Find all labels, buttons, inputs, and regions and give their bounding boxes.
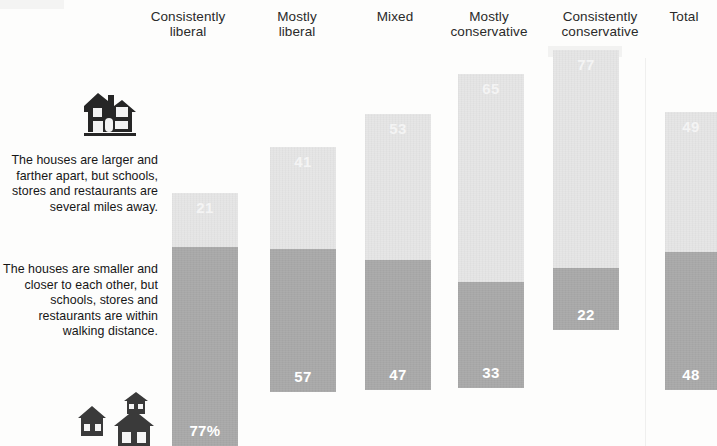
side-label-walkable: The houses are smaller and closer to eac…: [0, 262, 162, 340]
bar-consistently-conservative: 7722: [553, 50, 619, 330]
bar-mixed: 5347: [365, 114, 431, 390]
column-header-mostly-conservative: Mostly conservative: [434, 10, 544, 39]
column-header-consistently-liberal: Consistently liberal: [140, 10, 236, 39]
segment-walkable-mostly-conservative: 33: [458, 282, 524, 388]
value-label-spread-out-consistently-liberal: 21: [172, 199, 238, 216]
segment-spread-out-mixed: 53: [365, 114, 431, 260]
segment-walkable-consistently-conservative: 22: [553, 268, 619, 330]
value-label-walkable-mixed: 47: [365, 366, 431, 383]
scan-artifact: [0, 0, 64, 9]
column-header-total: Total: [654, 10, 714, 25]
side-label-spread-out: The houses are larger and farther apart,…: [0, 153, 162, 215]
value-label-spread-out-total: 49: [665, 118, 717, 135]
column-header-consistently-conservative: Consistently conservative: [540, 10, 660, 39]
bar-mostly-liberal: 4157: [270, 147, 336, 392]
value-label-walkable-mostly-liberal: 57: [270, 368, 336, 385]
chart-canvas: Consistently liberalMostly liberalMixedM…: [0, 0, 717, 446]
column-header-mixed: Mixed: [352, 10, 438, 25]
segment-spread-out-mostly-liberal: 41: [270, 147, 336, 249]
bar-consistently-liberal: 2177%: [172, 193, 238, 446]
houses-cluster-icon: [62, 392, 172, 446]
value-label-spread-out-mostly-liberal: 41: [270, 153, 336, 170]
value-label-spread-out-consistently-conservative: 77: [553, 56, 619, 73]
segment-walkable-consistently-liberal: 77%: [172, 247, 238, 446]
segment-spread-out-mostly-conservative: 65: [458, 74, 524, 282]
value-label-spread-out-mixed: 53: [365, 120, 431, 137]
bar-mostly-conservative: 6533: [458, 74, 524, 388]
value-label-walkable-consistently-conservative: 22: [553, 306, 619, 323]
value-label-walkable-mostly-conservative: 33: [458, 364, 524, 381]
segment-walkable-mostly-liberal: 57: [270, 249, 336, 392]
value-label-spread-out-mostly-conservative: 65: [458, 80, 524, 97]
value-label-walkable-total: 48: [665, 366, 717, 383]
segment-spread-out-consistently-liberal: 21: [172, 193, 238, 247]
column-header-mostly-liberal: Mostly liberal: [256, 10, 338, 39]
house-icon: [78, 82, 142, 142]
scan-rule: [645, 58, 646, 446]
segment-spread-out-total: 49: [665, 112, 717, 252]
bar-total: 4948: [665, 112, 717, 390]
segment-walkable-total: 48: [665, 252, 717, 390]
segment-spread-out-consistently-conservative: 77: [553, 50, 619, 268]
segment-walkable-mixed: 47: [365, 260, 431, 390]
value-label-walkable-consistently-liberal: 77%: [172, 422, 238, 439]
